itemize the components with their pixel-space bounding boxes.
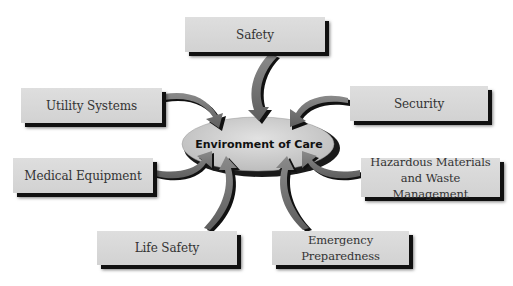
arrow-security [290, 96, 350, 130]
node-utility-systems-label: Utility Systems [46, 98, 137, 114]
node-medical-equipment-label: Medical Equipment [24, 168, 141, 184]
node-security-label: Security [394, 96, 444, 112]
node-security: Security [350, 86, 488, 121]
node-life-safety: Life Safety [97, 231, 237, 265]
node-emergency-preparedness: Emergency Preparedness [272, 231, 409, 265]
node-safety: Safety [185, 17, 325, 52]
node-medical-equipment: Medical Equipment [13, 158, 153, 193]
arrow-safety [248, 54, 280, 124]
node-hazardous-materials: Hazardous Materials and Waste Management [361, 158, 500, 197]
center-node-label: Environment of Care [183, 126, 335, 162]
environment-of-care-diagram: Environment of Care Safety Utility Syste… [0, 0, 513, 286]
node-utility-systems: Utility Systems [21, 88, 162, 123]
node-emergency-preparedness-label: Emergency Preparedness [272, 232, 409, 264]
node-life-safety-label: Life Safety [135, 240, 200, 256]
node-safety-label: Safety [236, 27, 274, 43]
node-hazardous-materials-label: Hazardous Materials and Waste Management [363, 154, 498, 202]
